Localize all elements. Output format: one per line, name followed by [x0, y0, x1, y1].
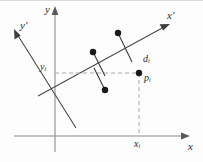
- axis-y-prime: [14, 29, 76, 128]
- y-axis-label: y: [45, 4, 50, 15]
- axis-y: [52, 6, 59, 152]
- d-sub-i-subscript: i: [148, 57, 150, 64]
- data-point-2: [115, 30, 121, 36]
- residual-segment-3: [94, 68, 105, 90]
- x-prime-axis-label: x': [167, 10, 174, 21]
- p-sub-i-subscript: i: [149, 76, 151, 83]
- data-point-3: [102, 87, 108, 93]
- figure-canvas: y x x' y' yi xi di pi: [0, 0, 203, 162]
- x-sub-i-label: xi: [134, 139, 140, 149]
- d-sub-i-label: di: [143, 54, 150, 64]
- axis-x-prime: [38, 24, 170, 96]
- residual-segment-2: [118, 33, 132, 62]
- x-sub-i-subscript: i: [138, 142, 140, 149]
- p-sub-i-label: pi: [144, 73, 151, 83]
- projected-point-p-i: [136, 70, 142, 76]
- x-prime-arrowhead: [160, 24, 170, 30]
- figure-graphics: [0, 0, 203, 162]
- y-sub-i-label: yi: [40, 62, 46, 72]
- x-axis-arrowhead: [181, 133, 190, 140]
- x-axis-label: x: [188, 141, 193, 152]
- y-sub-i-subscript: i: [44, 65, 46, 72]
- axis-x: [14, 133, 190, 140]
- y-axis-arrowhead: [52, 6, 59, 15]
- residual-segment-1: [93, 52, 105, 76]
- data-point-1: [90, 49, 96, 55]
- y-prime-axis-label: y': [20, 20, 27, 31]
